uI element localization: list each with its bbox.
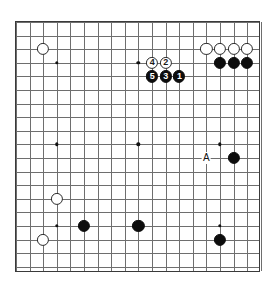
go-board-grid[interactable]: 42531 A — [15, 21, 260, 272]
stone-move-number: 5 — [147, 71, 157, 81]
stone-move-number: 3 — [161, 71, 171, 81]
stone-move-number: 2 — [161, 58, 171, 68]
white-stone[interactable] — [37, 234, 49, 246]
black-stone[interactable] — [241, 57, 253, 69]
grid-line-vertical — [30, 22, 31, 271]
grid-line-vertical — [84, 22, 85, 271]
grid-line-horizontal — [16, 172, 259, 173]
grid-line-vertical — [206, 22, 207, 271]
grid-line-vertical — [16, 22, 17, 271]
white-stone[interactable] — [228, 43, 240, 55]
grid-line-vertical — [111, 22, 112, 271]
black-stone[interactable] — [228, 57, 240, 69]
grid-line-horizontal — [16, 212, 259, 213]
go-diagram: 42531 A — [0, 0, 275, 292]
grid-line-horizontal — [16, 253, 259, 254]
numbered-stone-4[interactable]: 4 — [146, 57, 158, 69]
grid-line-horizontal — [16, 267, 259, 268]
grid-line-vertical — [57, 22, 58, 271]
star-point — [137, 61, 140, 64]
star-point — [218, 143, 221, 146]
white-stone[interactable] — [37, 43, 49, 55]
grid-line-vertical — [70, 22, 71, 271]
white-stone[interactable] — [241, 43, 253, 55]
numbered-stone-5[interactable]: 5 — [146, 70, 158, 82]
numbered-stone-3[interactable]: 3 — [160, 70, 172, 82]
star-point — [218, 224, 221, 227]
grid-line-vertical — [98, 22, 99, 271]
grid-line-horizontal — [16, 185, 259, 186]
white-stone[interactable] — [200, 43, 212, 55]
black-stone[interactable] — [214, 57, 226, 69]
grid-line-vertical — [261, 22, 262, 271]
star-point — [55, 224, 58, 227]
numbered-stone-1[interactable]: 1 — [173, 70, 185, 82]
black-stone[interactable] — [214, 234, 226, 246]
numbered-stone-2[interactable]: 2 — [160, 57, 172, 69]
white-stone[interactable] — [214, 43, 226, 55]
stone-move-number: 4 — [147, 58, 157, 68]
board-letter-marker-a: A — [202, 152, 211, 164]
grid-line-vertical — [193, 22, 194, 271]
white-stone[interactable] — [51, 193, 63, 205]
black-stone[interactable] — [132, 220, 144, 232]
grid-line-vertical — [125, 22, 126, 271]
star-point — [55, 143, 58, 146]
grid-line-horizontal — [16, 158, 259, 159]
black-stone[interactable] — [228, 152, 240, 164]
grid-line-vertical — [179, 22, 180, 271]
star-point — [137, 143, 140, 146]
stone-move-number: 1 — [174, 71, 184, 81]
black-stone[interactable] — [78, 220, 90, 232]
star-point — [55, 61, 58, 64]
grid-line-vertical — [138, 22, 139, 271]
